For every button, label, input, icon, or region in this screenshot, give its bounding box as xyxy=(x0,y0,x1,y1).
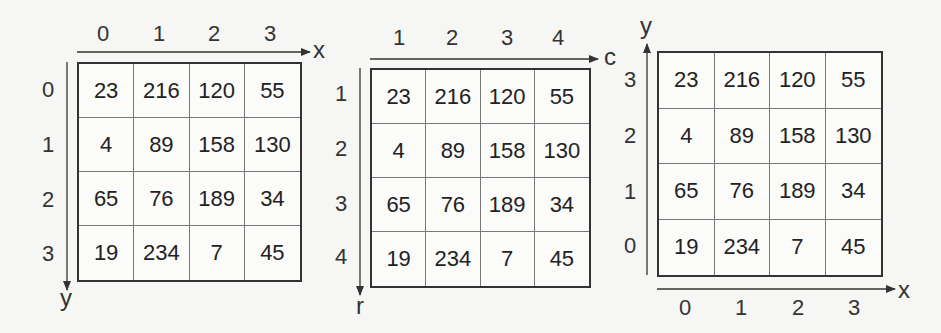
matrix-cell: 34 xyxy=(535,178,589,232)
matrix-cell: 120 xyxy=(190,64,245,118)
col-label: 3 xyxy=(492,26,522,50)
matrix-cell: 216 xyxy=(426,70,480,124)
col-label: 2 xyxy=(437,26,467,50)
matrix-cell: 23 xyxy=(79,64,134,118)
matrix-cell: 45 xyxy=(535,232,589,286)
row-label: 2 xyxy=(615,124,645,148)
matrix-cell: 120 xyxy=(770,53,826,109)
matrix-cell: 45 xyxy=(826,220,882,276)
matrix-cell: 19 xyxy=(372,232,426,286)
x-axis-label: x xyxy=(898,278,910,302)
matrix-cell: 130 xyxy=(245,118,300,172)
matrix-cell: 189 xyxy=(481,178,535,232)
matrix-cell: 55 xyxy=(245,64,300,118)
matrix-cell: 23 xyxy=(372,70,426,124)
matrix-cell: 4 xyxy=(79,118,134,172)
col-label: 0 xyxy=(670,296,700,320)
col-label: 2 xyxy=(199,22,229,46)
x-axis-label: x xyxy=(313,38,325,62)
c-axis-label: c xyxy=(604,45,616,69)
matrix-cell: 130 xyxy=(826,109,882,165)
matrix-cell: 45 xyxy=(245,226,300,280)
row-label: 1 xyxy=(326,82,356,106)
row-label: 1 xyxy=(615,180,645,204)
row-label: 3 xyxy=(33,242,63,266)
matrix-cell: 65 xyxy=(79,172,134,226)
matrix-cell: 189 xyxy=(190,172,245,226)
matrix-cell: 4 xyxy=(659,109,715,165)
matrix-cell: 130 xyxy=(535,124,589,178)
matrix-grid: 23 216 120 55 4 89 158 130 65 76 189 34 … xyxy=(77,62,302,282)
matrix-cell: 158 xyxy=(481,124,535,178)
matrix-cell: 89 xyxy=(426,124,480,178)
row-label: 2 xyxy=(326,137,356,161)
matrix-cell: 55 xyxy=(826,53,882,109)
matrix-cell: 120 xyxy=(481,70,535,124)
row-label: 2 xyxy=(33,188,63,212)
matrix-cell: 76 xyxy=(134,172,189,226)
matrix-cell: 216 xyxy=(715,53,771,109)
row-label: 3 xyxy=(326,192,356,216)
matrix-cell: 34 xyxy=(826,164,882,220)
matrix-cell: 158 xyxy=(770,109,826,165)
col-label: 1 xyxy=(144,22,174,46)
matrix-cell: 65 xyxy=(372,178,426,232)
matrix-cell: 234 xyxy=(426,232,480,286)
row-label: 4 xyxy=(326,245,356,269)
matrix-cell: 23 xyxy=(659,53,715,109)
matrix-cell: 76 xyxy=(715,164,771,220)
matrix-cell: 19 xyxy=(79,226,134,280)
col-label: 1 xyxy=(726,296,756,320)
matrix-cell: 76 xyxy=(426,178,480,232)
matrix-grid: 23 216 120 55 4 89 158 130 65 76 189 34 … xyxy=(657,51,883,277)
matrix-cell: 234 xyxy=(134,226,189,280)
matrix-cell: 189 xyxy=(770,164,826,220)
r-axis-label: r xyxy=(356,294,364,318)
matrix-cell: 34 xyxy=(245,172,300,226)
col-label: 1 xyxy=(384,26,414,50)
matrix-cell: 216 xyxy=(134,64,189,118)
col-label: 3 xyxy=(255,22,285,46)
y-axis-label: y xyxy=(640,14,652,38)
matrix-cell: 89 xyxy=(715,109,771,165)
col-label: 4 xyxy=(543,26,573,50)
matrix-cell: 7 xyxy=(481,232,535,286)
matrix-cell: 19 xyxy=(659,220,715,276)
row-label: 0 xyxy=(615,234,645,258)
matrix-cell: 89 xyxy=(134,118,189,172)
row-label: 1 xyxy=(33,133,63,157)
col-label: 0 xyxy=(88,22,118,46)
matrix-cell: 7 xyxy=(190,226,245,280)
matrix-cell: 55 xyxy=(535,70,589,124)
col-label: 3 xyxy=(839,296,869,320)
matrix-cell: 234 xyxy=(715,220,771,276)
matrix-cell: 158 xyxy=(190,118,245,172)
matrix-grid: 23 216 120 55 4 89 158 130 65 76 189 34 … xyxy=(370,68,591,288)
matrix-cell: 4 xyxy=(372,124,426,178)
col-label: 2 xyxy=(783,296,813,320)
row-label: 0 xyxy=(33,78,63,102)
matrix-cell: 7 xyxy=(770,220,826,276)
matrix-cell: 65 xyxy=(659,164,715,220)
row-label: 3 xyxy=(615,68,645,92)
y-axis-label: y xyxy=(60,286,72,310)
